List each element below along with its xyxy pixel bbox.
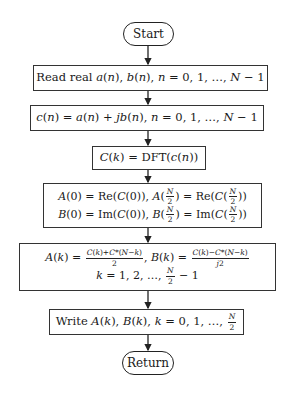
combine-step: c(n) = a(n) + jb(n), n = 0, 1, …, N − 1 xyxy=(30,105,264,131)
start-terminal: Start xyxy=(123,22,174,46)
combine-text: c(n) = a(n) + jb(n), n = 0, 1, …, N − 1 xyxy=(36,111,257,125)
write-output-text: Write A(k), B(k), k = 0, 1, …, N2 xyxy=(56,313,237,331)
split-line-1: A(k) = C(k)+C*(N−k)2, B(k) = C(k)−C*(N−k… xyxy=(45,249,249,267)
edge-values-step: A(0) = Re(C(0)), A(N2) = Re(C(N2)) B(0) … xyxy=(43,183,262,228)
return-label: Return xyxy=(127,356,169,370)
edge-values-line-1: A(0) = Re(C(0)), A(N2) = Re(C(N2)) xyxy=(58,188,246,206)
split-step: A(k) = C(k)+C*(N−k)2, B(k) = C(k)−C*(N−k… xyxy=(19,243,276,291)
dft-text: C(k) = DFT(c(n)) xyxy=(100,151,198,165)
read-input-step: Read real a(n), b(n), n = 0, 1, …, N − 1 xyxy=(33,65,268,91)
return-terminal: Return xyxy=(122,351,174,375)
split-line-2: k = 1, 2, …, N2 − 1 xyxy=(96,267,199,285)
edge-values-line-2: B(0) = Im(C(0)), B(N2) = Im(C(N2)) xyxy=(58,206,247,224)
dft-step: C(k) = DFT(c(n)) xyxy=(92,146,206,170)
start-label: Start xyxy=(133,27,164,41)
write-output-step: Write A(k), B(k), k = 0, 1, …, N2 xyxy=(49,309,244,335)
read-input-text: Read real a(n), b(n), n = 0, 1, …, N − 1 xyxy=(36,71,264,85)
